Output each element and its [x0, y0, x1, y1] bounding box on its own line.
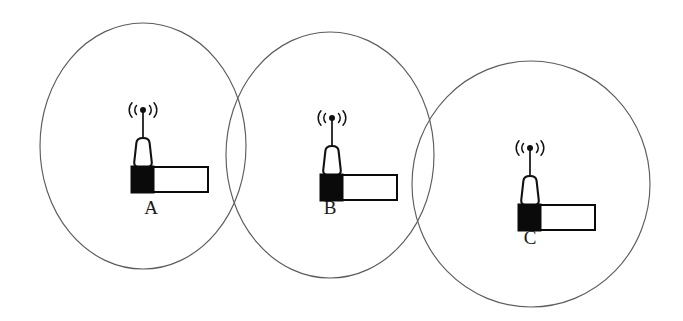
cell-label-c: C: [524, 227, 537, 248]
base-station-icon-b: [318, 111, 397, 201]
coverage-diagram: A B C: [0, 0, 683, 321]
cell-label-a: A: [144, 197, 158, 218]
base-station-icon-a: [129, 103, 208, 193]
base-station-icon-c: [516, 141, 595, 231]
cell-label-b: B: [324, 197, 337, 218]
diagram-canvas: A B C: [0, 0, 683, 321]
